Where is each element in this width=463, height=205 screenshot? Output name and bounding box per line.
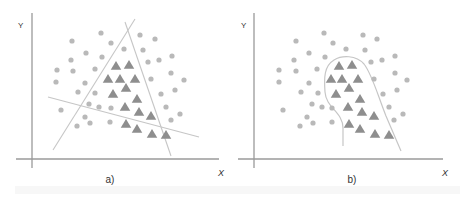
- triangle-point: [115, 74, 126, 83]
- circle-point: [68, 57, 73, 62]
- panel-caption: a): [106, 174, 115, 185]
- circle-point: [315, 90, 320, 95]
- circle-point: [83, 50, 88, 55]
- circle-point: [121, 46, 126, 51]
- triangle-point: [146, 111, 157, 120]
- triangle-point: [326, 74, 337, 83]
- triangle-point: [147, 129, 158, 138]
- circle-point: [70, 68, 75, 73]
- circle-point: [306, 50, 311, 55]
- triangle-point: [334, 61, 345, 70]
- circle-point: [87, 120, 92, 125]
- circle-point: [293, 38, 298, 43]
- circle-point: [92, 90, 97, 95]
- circle-point: [108, 40, 113, 45]
- circle-point: [319, 104, 324, 109]
- triangle-point: [347, 60, 358, 69]
- triangle-point: [357, 107, 368, 116]
- circle-point: [108, 105, 113, 110]
- circle-point: [309, 101, 314, 106]
- circle-point: [329, 105, 334, 110]
- circle-point: [145, 59, 150, 64]
- circle-point: [310, 120, 315, 125]
- triangle-point: [121, 119, 132, 128]
- circle-point: [99, 54, 104, 59]
- circle-point: [276, 79, 281, 84]
- circle-point: [404, 77, 409, 82]
- circle-point: [304, 114, 309, 119]
- circle-point: [297, 123, 302, 128]
- circle-point: [322, 54, 327, 59]
- circle-point: [329, 119, 334, 124]
- circle-point: [298, 89, 303, 94]
- circle-point: [371, 76, 376, 81]
- figure: YXa)YXb): [0, 0, 463, 205]
- decision-boundary-line: [48, 97, 199, 137]
- circle-point: [380, 91, 385, 96]
- triangle-point: [132, 124, 143, 133]
- triangle-point: [111, 61, 122, 70]
- circle-point: [53, 79, 58, 84]
- circle-point: [386, 104, 391, 109]
- circle-point: [374, 36, 379, 41]
- circle-point: [379, 57, 384, 62]
- circle-point: [177, 111, 182, 116]
- triangle-point: [353, 74, 364, 83]
- triangle-point: [355, 94, 366, 103]
- circle-point: [74, 123, 79, 128]
- triangle-point: [124, 60, 135, 69]
- circle-point: [98, 30, 103, 35]
- circle-point: [392, 53, 397, 58]
- triangle-point: [120, 102, 131, 111]
- circle-point: [158, 91, 163, 96]
- x-axis-label: X: [441, 168, 449, 178]
- circle-point: [140, 47, 145, 52]
- circle-point: [156, 57, 161, 62]
- circle-point: [330, 40, 335, 45]
- circle-point: [392, 70, 397, 75]
- circle-point: [107, 119, 112, 124]
- panel-a: YXa): [16, 13, 225, 185]
- circle-point: [75, 89, 80, 94]
- triangle-point: [344, 119, 355, 128]
- circle-point: [343, 46, 348, 51]
- circle-point: [168, 117, 173, 122]
- circle-point: [360, 32, 365, 37]
- circle-point: [368, 59, 373, 64]
- circle-point: [163, 104, 168, 109]
- circle-point: [172, 87, 177, 92]
- triangle-point: [343, 102, 354, 111]
- triangle-point: [108, 89, 119, 98]
- circle-point: [291, 57, 296, 62]
- circle-point: [394, 87, 399, 92]
- triangle-point: [337, 74, 348, 83]
- circle-point: [92, 66, 97, 71]
- triangle-point: [355, 124, 366, 133]
- circle-point: [314, 66, 319, 71]
- decision-boundary-line: [53, 19, 135, 150]
- circle-point: [181, 77, 186, 82]
- circle-point: [82, 114, 87, 119]
- circle-point: [306, 80, 311, 85]
- circle-point: [148, 76, 153, 81]
- triangle-point: [370, 129, 381, 138]
- circle-point: [400, 111, 405, 116]
- triangle-point: [344, 83, 355, 92]
- circle-point: [280, 107, 285, 112]
- circle-point: [96, 104, 101, 109]
- circle-point: [293, 68, 298, 73]
- circle-point: [58, 107, 63, 112]
- circle-point: [54, 67, 59, 72]
- circle-point: [86, 101, 91, 106]
- panel-b: YXb): [238, 13, 449, 185]
- circle-point: [321, 30, 326, 35]
- circle-point: [276, 67, 281, 72]
- panel-caption: b): [348, 174, 357, 185]
- y-axis-label: Y: [241, 21, 247, 30]
- x-axis-label: X: [217, 168, 225, 178]
- triangle-point: [369, 111, 380, 120]
- circle-point: [169, 53, 174, 58]
- triangle-point: [132, 94, 143, 103]
- triangle-point: [121, 83, 132, 92]
- circle-point: [152, 36, 157, 41]
